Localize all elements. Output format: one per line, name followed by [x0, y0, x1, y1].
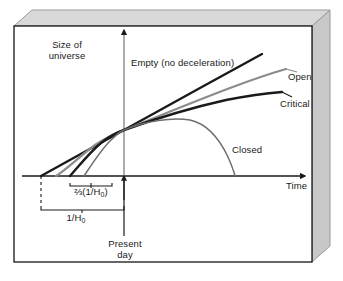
critical-age-close: ) — [105, 186, 108, 197]
leader-critical — [282, 92, 292, 97]
curve-closed — [84, 119, 235, 176]
y-axis-label-line2: universe — [49, 50, 86, 61]
bracket-hubble-time — [41, 206, 124, 210]
figure-panel: Size of universe Empty (no deceleration)… — [0, 0, 343, 281]
y-axis-label-line1: Size of — [52, 39, 82, 50]
present-day-line2: day — [117, 249, 133, 260]
hubble-time-subscript: 0 — [82, 217, 86, 224]
curve-critical — [70, 92, 282, 176]
curve-label-empty: Empty (no deceleration) — [131, 57, 234, 68]
critical-age-fraction: ⅔ — [74, 186, 82, 197]
curve-label-critical: Critical — [280, 98, 310, 109]
y-axis-label: Size of universe — [36, 39, 98, 61]
annotation-critical-age: ⅔(1/H0) — [60, 186, 122, 200]
curve-label-open: Open — [288, 71, 312, 82]
critical-age-open: (1/H — [82, 186, 100, 197]
curve-open — [56, 69, 286, 176]
curve-label-closed: Closed — [232, 144, 262, 155]
annotation-present-day: Present day — [96, 238, 154, 260]
x-axis-label: Time — [286, 180, 307, 191]
present-day-line1: Present — [108, 238, 141, 249]
annotation-hubble-time: 1/H0 — [45, 212, 107, 226]
hubble-time-main: 1/H — [66, 212, 81, 223]
